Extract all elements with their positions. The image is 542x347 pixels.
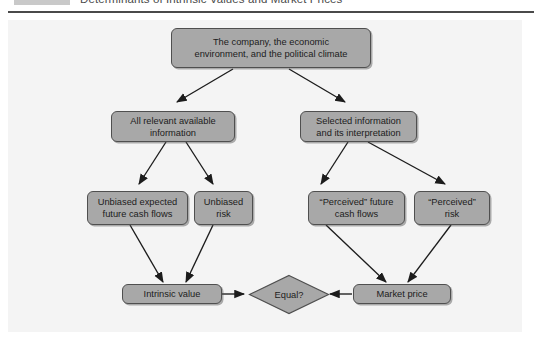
node-source-line2: environment, and the political climate xyxy=(195,48,348,60)
node-perceived-risk-line1: “Perceived” xyxy=(428,196,476,208)
node-all-relevant-information: All relevant available information xyxy=(111,111,235,142)
node-intrinsic-value-label: Intrinsic value xyxy=(144,288,201,300)
node-all-relevant-information-line1: All relevant available xyxy=(130,115,215,127)
node-perceived-cash-flows-line1: “Perceived” future xyxy=(320,196,394,208)
node-source: The company, the economic environment, a… xyxy=(171,28,371,68)
figure-number-tab xyxy=(14,0,70,5)
node-selected-information-line2: and its interpretation xyxy=(316,127,401,139)
node-intrinsic-value: Intrinsic value xyxy=(122,284,222,304)
node-perceived-risk: “Perceived” risk xyxy=(414,191,490,225)
flowchart-panel: Equal? The company, the economic environ… xyxy=(8,20,522,332)
node-market-price-label: Market price xyxy=(376,288,427,300)
node-perceived-cash-flows-line2: cash flows xyxy=(320,208,394,220)
decision-node-equal: Equal? xyxy=(248,274,330,315)
node-selected-information: Selected information and its interpretat… xyxy=(300,111,417,142)
node-all-relevant-information-line2: information xyxy=(130,127,215,139)
title-divider xyxy=(8,11,534,13)
node-unbiased-risk-line2: risk xyxy=(204,208,243,220)
decision-node-equal-label: Equal? xyxy=(248,274,330,315)
figure-title: Determinants of Intrinsic Values and Mar… xyxy=(80,0,342,5)
node-unbiased-cash-flows-line1: Unbiased expected xyxy=(98,196,178,208)
node-perceived-cash-flows: “Perceived” future cash flows xyxy=(308,191,405,225)
node-unbiased-cash-flows: Unbiased expected future cash flows xyxy=(87,191,188,225)
node-perceived-risk-line2: risk xyxy=(428,208,476,220)
node-source-line1: The company, the economic xyxy=(195,36,348,48)
node-unbiased-risk: Unbiased risk xyxy=(194,191,253,225)
node-market-price: Market price xyxy=(353,284,451,304)
node-unbiased-risk-line1: Unbiased xyxy=(204,196,243,208)
node-unbiased-cash-flows-line2: future cash flows xyxy=(98,208,178,220)
node-selected-information-line1: Selected information xyxy=(316,115,401,127)
